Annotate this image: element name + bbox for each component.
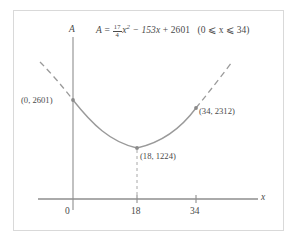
a-axis-label: A <box>69 25 75 35</box>
point-marker-right <box>194 106 198 110</box>
axes-group <box>38 37 258 210</box>
figure-container: A x A = 174x2 − 153x + 2601 (0 ⩽ x ⩽ 34)… <box>0 0 296 242</box>
equation-linear-value: − 153x <box>132 25 160 35</box>
point-label-left: (0, 2601) <box>21 96 53 105</box>
x-tick-label-34: 34 <box>190 207 200 217</box>
point-label-right: (34, 2312) <box>199 107 235 116</box>
x-axis-label: x <box>261 193 265 203</box>
equation-domain: (0 ⩽ x ⩽ 34) <box>198 25 250 35</box>
equation-space-3 <box>190 25 197 35</box>
fraction-denominator: 4 <box>113 32 122 39</box>
equation-constant-term: + 2601 <box>163 25 190 35</box>
equation-fraction: 174 <box>113 24 122 39</box>
parabola-solid-segment <box>73 100 196 148</box>
point-marker-left <box>71 98 75 102</box>
equation-label: A = 174x2 − 153x + 2601 (0 ⩽ x ⩽ 34) <box>96 24 250 39</box>
curve-group <box>40 62 232 197</box>
x-tick-label-18: 18 <box>131 207 141 217</box>
x-tick-label-0: 0 <box>65 207 70 217</box>
parabola-dashed-right <box>196 62 232 108</box>
point-markers-group <box>71 98 198 150</box>
point-marker-vertex <box>135 146 139 150</box>
point-label-vertex: (18, 1224) <box>140 152 176 161</box>
equation-equals: = <box>102 25 112 35</box>
